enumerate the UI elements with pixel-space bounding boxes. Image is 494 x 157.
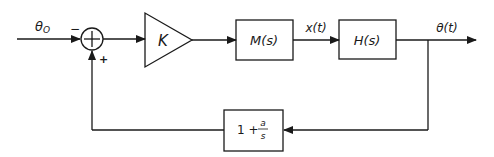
minus-sign: −: [70, 22, 80, 36]
feedback-denominator: s: [261, 131, 266, 141]
x-signal-label: x(t): [304, 21, 326, 35]
input-label: θO: [35, 19, 50, 35]
plus-sign: +: [99, 53, 108, 66]
m-block-label: M(s): [250, 33, 278, 48]
block-diagram: θO − + K M(s) x(t) H(s) θ(t) 1 + a s: [0, 0, 494, 157]
feedback-numerator: a: [260, 118, 266, 128]
feedback-prefix: 1 +: [237, 123, 259, 137]
h-block-label: H(s): [354, 33, 381, 48]
gain-block: [145, 13, 192, 67]
output-label: θ(t): [436, 21, 457, 35]
gain-label: K: [158, 32, 169, 50]
